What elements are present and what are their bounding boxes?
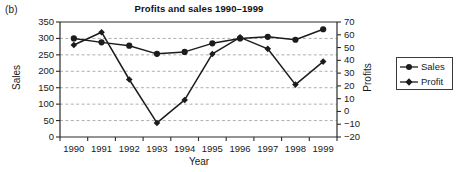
data-point-sales-1992 (126, 43, 132, 49)
series-line-profit (74, 32, 323, 123)
y-axis-tick-label: 0 (14, 132, 54, 141)
data-point-profit-1991 (98, 29, 105, 36)
data-point-sales-1993 (154, 51, 160, 57)
y2-axis-tick-label: 0 (344, 106, 384, 115)
data-point-sales-1991 (98, 39, 104, 45)
y-axis-tick-label: 300 (14, 33, 54, 42)
data-series-layer (71, 26, 327, 126)
data-point-sales-1995 (209, 40, 215, 46)
legend-marker-circle-icon (399, 61, 419, 73)
legend-item-sales[interactable]: Sales (397, 59, 452, 74)
y-axis-tick-label: 50 (14, 116, 54, 125)
y-axis-title: Sales (11, 50, 22, 106)
data-point-sales-1999 (320, 26, 326, 32)
gridlines (60, 38, 337, 120)
legend-item-profit[interactable]: Profit (397, 74, 452, 89)
data-point-profit-1990 (71, 42, 78, 49)
y2-axis-tick-label: −20 (344, 132, 384, 141)
legend-label-sales: Sales (421, 61, 445, 72)
chart-legend: Sales Profit (396, 57, 453, 90)
data-point-sales-1997 (265, 34, 271, 40)
y2-axis-title: Profits (362, 50, 373, 106)
x-axis-title: Year (60, 156, 338, 167)
data-point-sales-1994 (182, 49, 188, 55)
y2-axis-tick-label: −10 (344, 119, 384, 128)
y2-axis-tick-label: 60 (344, 30, 384, 39)
legend-marker-diamond-icon (399, 76, 419, 88)
y2-axis-tick-label: 70 (344, 17, 384, 26)
legend-label-profit: Profit (421, 76, 443, 87)
x-axis-tick-marks (60, 137, 337, 141)
data-point-sales-1998 (292, 37, 298, 43)
chart-figure: (b) Profits and sales 1990–1999 05010015… (0, 0, 459, 172)
x-axis-tick-label: 1999 (303, 144, 343, 154)
data-point-sales-1990 (71, 35, 77, 41)
y-axis-tick-label: 350 (14, 17, 54, 26)
data-point-profit-1995 (209, 51, 216, 58)
